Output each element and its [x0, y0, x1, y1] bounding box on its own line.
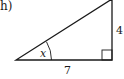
angle-label: x: [40, 48, 46, 59]
part-label: h): [0, 0, 12, 12]
right-triangle: [16, 0, 112, 60]
triangle-diagram: [0, 0, 124, 79]
angle-arc: [47, 42, 52, 60]
horizontal-side-label: 7: [64, 65, 71, 76]
triangle-figure: h) x 4 7: [0, 0, 124, 79]
right-angle-marker: [102, 50, 112, 60]
vertical-side-label: 4: [116, 25, 123, 36]
